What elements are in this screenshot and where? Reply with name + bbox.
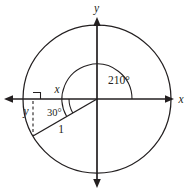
y-axis-label: y: [93, 2, 100, 15]
angle-arc-30-reference: [69, 99, 73, 113]
horizontal-leg-label: x: [53, 83, 60, 95]
x-axis-label: x: [177, 93, 184, 105]
y-axis-top-arrowhead: [93, 17, 101, 26]
angle-label-210: 210°: [108, 74, 130, 86]
terminal-ray-210: [33, 99, 97, 136]
unit-circle-figure: y x 210° 30° 1 x y: [0, 0, 195, 196]
y-axis-bottom-arrowhead: [93, 179, 101, 188]
x-axis-left-arrowhead: [4, 95, 13, 103]
angle-label-30: 30°: [47, 107, 62, 118]
x-axis-right-arrowhead: [165, 95, 174, 103]
vertical-leg-label: y: [22, 105, 29, 118]
right-angle-marker: [33, 93, 41, 100]
figure-canvas: y x 210° 30° 1 x y: [0, 0, 195, 196]
hypotenuse-label: 1: [58, 123, 64, 135]
